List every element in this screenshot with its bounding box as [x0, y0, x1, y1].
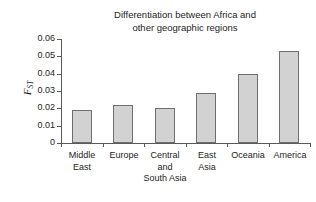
x-axis-category-labels: Middle EastEuropeCentral and South AsiaE… — [61, 150, 310, 198]
bar — [155, 108, 175, 143]
bar — [279, 51, 299, 143]
chart-figure: Differentiation between Africa and other… — [0, 0, 316, 202]
x-axis-tick — [310, 143, 311, 147]
x-axis-tick — [144, 143, 145, 147]
bar — [196, 93, 216, 143]
y-axis-tick-label: 0.02 — [19, 103, 55, 112]
y-axis-tick-label: 0 — [19, 138, 55, 147]
x-axis-tick — [269, 143, 270, 147]
x-axis-category-label: America — [265, 150, 315, 162]
y-axis-tick-label: 0.05 — [19, 51, 55, 60]
x-axis-tick — [61, 143, 62, 147]
y-axis-tick-label: 0.06 — [19, 34, 55, 43]
bar — [72, 110, 92, 143]
plot-area: 00.010.020.030.040.050.06 — [61, 39, 310, 143]
bar — [113, 105, 133, 143]
y-axis-tick-label: 0.03 — [19, 86, 55, 95]
y-axis-tick-label: 0.01 — [19, 121, 55, 130]
x-axis-tick — [186, 143, 187, 147]
y-axis-tick-label: 0.04 — [19, 69, 55, 78]
x-axis-tick — [103, 143, 104, 147]
x-axis-tick — [227, 143, 228, 147]
bar-series — [61, 39, 310, 143]
bar — [238, 74, 258, 143]
chart-title: Differentiation between Africa and other… — [60, 8, 310, 34]
